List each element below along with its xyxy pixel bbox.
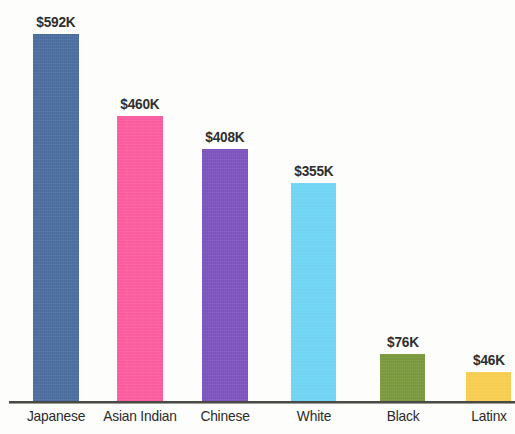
bar-rect-white (291, 183, 336, 403)
tick-label-chinese: Chinese (182, 408, 268, 424)
bar-value-label-chinese: $408K (205, 130, 244, 145)
bar-group-japanese: $592K (33, 0, 79, 403)
bar-rect-latinx (466, 372, 511, 403)
tick-label-asian-indian: Asian Indian (97, 408, 183, 424)
bar-group-black: $76K (380, 0, 425, 403)
bar-chart: $592K $460K $408K $355K $76K $46K Japane… (0, 0, 515, 434)
bar-group-white: $355K (291, 0, 336, 403)
tick-label-japanese: Japanese (13, 408, 99, 424)
tick-label-white: White (271, 408, 357, 424)
x-axis-baseline-shadow (9, 403, 515, 404)
bar-value-label-black: $76K (387, 335, 419, 350)
bar-value-label-asian-indian: $460K (120, 97, 159, 112)
bar-value-label-white: $355K (294, 164, 333, 179)
bar-rect-black (380, 354, 425, 403)
tick-label-latinx: Latinx (446, 408, 515, 424)
bar-rect-chinese (202, 149, 248, 403)
tick-label-black: Black (360, 408, 446, 424)
x-axis-tick-labels: Japanese Asian Indian Chinese White Blac… (0, 406, 515, 434)
bar-value-label-japanese: $592K (36, 15, 75, 30)
bar-group-asian-indian: $460K (117, 0, 163, 403)
plot-area: $592K $460K $408K $355K $76K $46K (0, 0, 515, 403)
bar-group-chinese: $408K (202, 0, 248, 403)
bar-value-label-latinx: $46K (473, 353, 505, 368)
bar-rect-asian-indian (117, 116, 163, 403)
bar-rect-japanese (33, 34, 79, 403)
bar-group-latinx: $46K (466, 0, 511, 403)
